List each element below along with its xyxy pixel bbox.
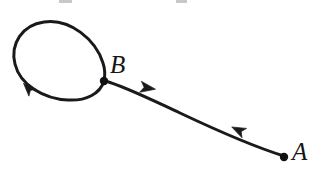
point-a-marker: [280, 153, 288, 161]
top-right-crop-artifact: [176, 0, 187, 3]
trajectory-diagram-svg: [0, 0, 314, 173]
arrow-on-limit-cycle-icon: [20, 80, 36, 96]
point-b-marker: [100, 77, 108, 85]
arrow-near-b-outflow-icon: [140, 81, 157, 94]
point-b-label: B: [110, 52, 125, 77]
incoming-trajectory-curve: [105, 81, 284, 156]
diagram-canvas: B A: [0, 0, 314, 173]
point-a-label: A: [292, 139, 307, 164]
top-left-crop-artifact: [59, 0, 72, 3]
